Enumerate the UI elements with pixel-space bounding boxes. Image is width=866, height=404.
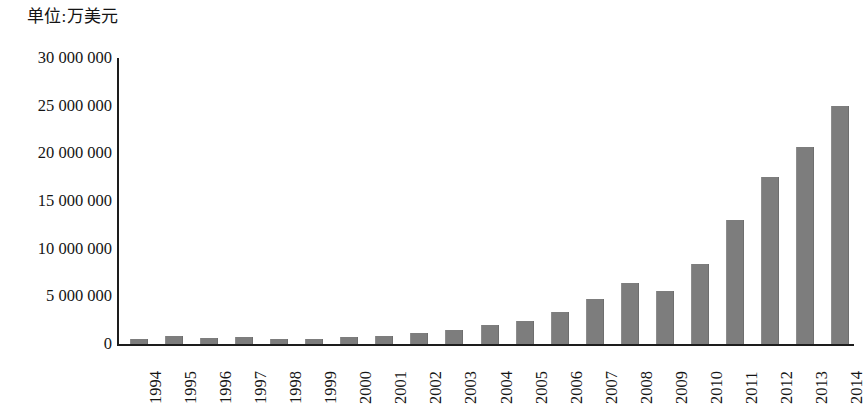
bar — [200, 338, 218, 344]
bar — [445, 330, 463, 345]
x-axis-tick-label: 1997 — [252, 348, 270, 404]
plot-area — [117, 58, 854, 346]
y-axis-tick-label: 25 000 000 — [0, 98, 112, 115]
bar — [270, 339, 288, 345]
y-axis-tick-label: 20 000 000 — [0, 145, 112, 162]
bar — [656, 291, 674, 345]
bar — [235, 337, 253, 344]
x-axis-tick-label: 2004 — [498, 348, 516, 404]
bar — [796, 147, 814, 344]
x-axis-tick-label: 2013 — [813, 348, 831, 404]
bar — [586, 299, 604, 345]
y-axis-tick-label: 10 000 000 — [0, 241, 112, 258]
bar — [130, 339, 148, 345]
x-axis-tick-label: 1995 — [182, 348, 200, 404]
x-axis-tick-label: 1996 — [217, 348, 235, 404]
x-axis-tick-label: 2011 — [743, 348, 761, 404]
bar — [305, 339, 323, 344]
bar — [516, 321, 534, 345]
bar — [481, 325, 499, 345]
x-axis-tick-label: 2003 — [462, 348, 480, 404]
x-axis-tick-label: 2008 — [638, 348, 656, 404]
x-axis-line — [117, 344, 854, 346]
x-axis-tick-label: 2000 — [357, 348, 375, 404]
x-axis-tick-label: 2014 — [848, 348, 866, 404]
x-axis-tick-label: 1998 — [287, 348, 305, 404]
bar — [375, 336, 393, 345]
bar — [831, 106, 849, 344]
y-axis-tick-label: 0 — [0, 336, 112, 353]
bar — [410, 333, 428, 344]
bar — [691, 264, 709, 344]
x-axis-tick-label: 2009 — [673, 348, 691, 404]
bar — [621, 283, 639, 344]
x-axis-tick-label: 2005 — [533, 348, 551, 404]
bar — [551, 312, 569, 345]
bar — [340, 337, 358, 345]
bars-layer — [117, 58, 854, 344]
bar — [726, 220, 744, 345]
y-axis-tick-label: 15 000 000 — [0, 193, 112, 210]
bar — [761, 177, 779, 345]
x-axis-tick-label: 2012 — [778, 348, 796, 404]
x-axis-tick-label: 2010 — [708, 348, 726, 404]
y-axis: 30 000 00025 000 00020 000 00015 000 000… — [0, 0, 112, 404]
y-axis-tick-label: 5 000 000 — [0, 288, 112, 305]
bar — [165, 336, 183, 344]
x-axis-tick-label: 2001 — [392, 348, 410, 404]
x-axis-tick-label: 2007 — [603, 348, 621, 404]
x-axis-tick-label: 1999 — [322, 348, 340, 404]
x-axis-tick-label: 2002 — [427, 348, 445, 404]
x-axis-tick-label: 1994 — [147, 348, 165, 404]
x-axis-tick-label: 2006 — [568, 348, 586, 404]
y-axis-tick-label: 30 000 000 — [0, 50, 112, 67]
x-axis: 1994199519961997199819992000200120022003… — [117, 348, 854, 404]
